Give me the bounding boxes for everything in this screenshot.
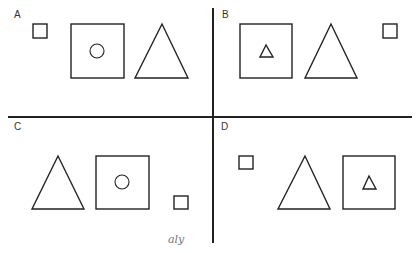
small-square-icon — [174, 196, 188, 209]
large-triangle-icon — [305, 24, 357, 78]
small-square-icon — [33, 24, 47, 38]
panel-label-b: B — [222, 10, 229, 20]
large-square-icon — [96, 156, 149, 209]
panel-label-c: C — [14, 122, 21, 132]
inner-triangle-icon — [260, 45, 273, 57]
inner-triangle-icon — [363, 176, 376, 189]
panel-b — [240, 24, 397, 78]
shape-puzzle-figure — [0, 0, 416, 253]
large-square-icon — [240, 24, 292, 78]
large-square-icon — [343, 156, 395, 209]
inner-circle-icon — [115, 175, 129, 189]
large-triangle-icon — [135, 24, 188, 78]
panel-a — [33, 24, 188, 78]
handwritten-signature: aly — [168, 234, 184, 245]
panel-d — [239, 156, 395, 209]
large-square-icon — [71, 24, 124, 78]
large-triangle-icon — [278, 156, 330, 209]
panel-label-a: A — [14, 10, 21, 20]
inner-circle-icon — [90, 44, 104, 58]
panel-dividers — [8, 8, 412, 243]
panel-c — [32, 156, 188, 209]
large-triangle-icon — [32, 156, 84, 209]
small-square-icon — [383, 24, 397, 38]
panel-label-d: D — [221, 122, 228, 132]
small-square-icon — [239, 156, 253, 169]
